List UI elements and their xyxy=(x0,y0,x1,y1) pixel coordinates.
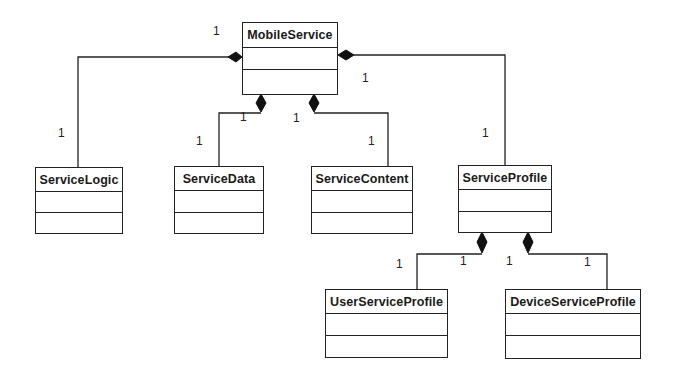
multiplicity-label: 1 xyxy=(196,135,203,147)
multiplicity-label: 1 xyxy=(240,111,247,123)
multiplicity-label: 1 xyxy=(293,112,300,124)
multiplicity-label: 1 xyxy=(482,127,489,139)
composition-diamond-icon xyxy=(309,94,319,112)
class-user-service-profile[interactable]: UserServiceProfile xyxy=(325,289,448,358)
class-operations xyxy=(36,213,122,233)
class-service-profile[interactable]: ServiceProfile xyxy=(458,165,552,233)
multiplicity-label: 1 xyxy=(58,127,65,139)
composition-diamond-icon xyxy=(228,52,242,62)
class-name: ServiceProfile xyxy=(459,166,551,190)
class-attributes xyxy=(506,314,640,336)
class-attributes xyxy=(243,48,337,70)
multiplicity-label: 1 xyxy=(362,72,369,84)
class-operations xyxy=(243,70,337,94)
class-name: UserServiceProfile xyxy=(326,290,447,314)
composition-diamond-icon xyxy=(256,94,266,112)
composition-line-user-service-profile xyxy=(417,254,482,289)
class-operations xyxy=(326,336,447,357)
class-operations xyxy=(175,213,263,233)
class-service-content[interactable]: ServiceContent xyxy=(311,166,413,234)
multiplicity-label: 1 xyxy=(506,255,513,267)
class-name: MobileService xyxy=(243,23,337,48)
multiplicity-label: 1 xyxy=(584,256,591,268)
uml-class-diagram: MobileService ServiceLogic ServiceData S… xyxy=(0,0,677,380)
class-name: ServiceContent xyxy=(312,167,412,191)
class-device-service-profile[interactable]: DeviceServiceProfile xyxy=(505,289,641,359)
class-attributes xyxy=(175,191,263,213)
composition-diamond-icon xyxy=(477,232,487,253)
class-mobile-service[interactable]: MobileService xyxy=(242,22,338,95)
class-attributes xyxy=(36,192,122,213)
composition-line-service-profile xyxy=(354,55,505,165)
multiplicity-label: 1 xyxy=(213,25,220,37)
class-service-data[interactable]: ServiceData xyxy=(174,166,264,234)
composition-diamond-icon xyxy=(523,232,533,253)
composition-line-service-logic xyxy=(78,57,230,167)
class-operations xyxy=(312,213,412,233)
class-service-logic[interactable]: ServiceLogic xyxy=(35,167,123,234)
multiplicity-label: 1 xyxy=(460,255,467,267)
class-operations xyxy=(459,212,551,232)
class-name: ServiceLogic xyxy=(36,168,122,192)
multiplicity-label: 1 xyxy=(396,258,403,270)
class-attributes xyxy=(459,190,551,212)
class-name: ServiceData xyxy=(175,167,263,191)
class-attributes xyxy=(326,314,447,336)
class-operations xyxy=(506,336,640,358)
composition-diamond-icon xyxy=(338,50,354,60)
multiplicity-label: 1 xyxy=(368,135,375,147)
class-name: DeviceServiceProfile xyxy=(506,290,640,314)
composition-line-service-content xyxy=(314,113,388,166)
class-attributes xyxy=(312,191,412,213)
composition-line-device-service-profile xyxy=(528,254,607,289)
